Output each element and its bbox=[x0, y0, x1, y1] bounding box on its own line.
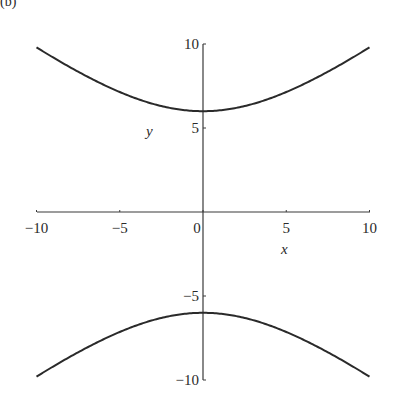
x-tick-label: 5 bbox=[283, 220, 291, 236]
x-tick-label: 0 bbox=[193, 220, 201, 236]
x-axis-label: x bbox=[280, 241, 288, 257]
y-axis-label: y bbox=[144, 123, 153, 139]
y-tick-label: 5 bbox=[192, 120, 200, 136]
x-tick-label: −10 bbox=[25, 220, 48, 236]
y-tick-label: 10 bbox=[184, 36, 199, 52]
x-tick-label: −5 bbox=[112, 220, 128, 236]
y-tick-label: −5 bbox=[183, 288, 199, 304]
hyperbola-chart: (b) −10−50510−10−5510 x y bbox=[0, 0, 397, 406]
panel-label: (b) bbox=[0, 0, 17, 10]
y-tick-label: −10 bbox=[176, 372, 199, 388]
x-tick-label: 10 bbox=[362, 220, 377, 236]
